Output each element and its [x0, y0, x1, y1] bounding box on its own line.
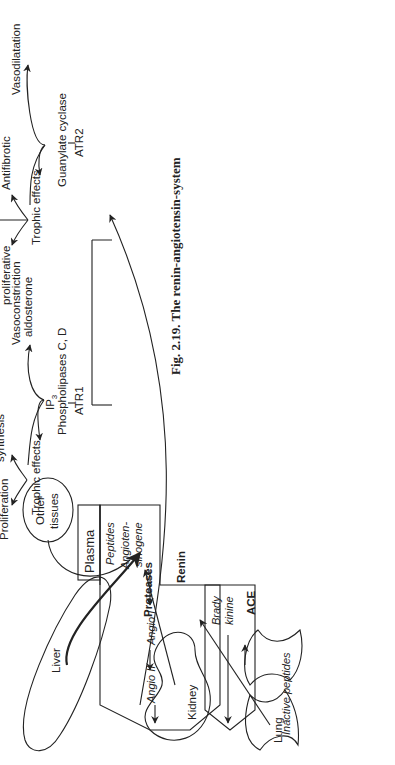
bradykinin-label-1: Brady: [210, 595, 222, 625]
kidney-label: Kidney: [186, 685, 198, 720]
angiotensinogen-label-2: sinogene: [132, 522, 144, 567]
renin-angiotensin-diagram: Liver Other tissues Kidney Lung Protease…: [0, 0, 395, 765]
guanylate-to-vasodilatation-arrow: [27, 65, 45, 145]
lung-organ: Lung: [245, 630, 302, 750]
antifibrotic-label: Antifibrotic: [0, 136, 12, 190]
peptides-label: Peptides: [104, 522, 116, 565]
ip3-to-vasoconstriction-arrow: [28, 345, 44, 400]
atr1-label: ATR1: [73, 386, 85, 415]
atr1-trophic-label: Trophic effects: [30, 440, 42, 515]
liver-label: Liver: [50, 648, 62, 673]
angiotensinogen-label-1: Angioten-: [119, 522, 131, 570]
ace-arrow: [200, 620, 270, 725]
protein-synthesis-label-3: synthesis: [0, 414, 6, 462]
other-tissues-label-2: tissues: [48, 493, 60, 529]
plasma-compartment: Plasma Peptides Angioten- sinogene Angio…: [78, 505, 220, 730]
plasma-header: Plasma: [82, 529, 97, 573]
aldosterone-label: aldosterone: [22, 277, 34, 337]
inactive-peptides-label: Inactive peptides: [280, 652, 292, 735]
figure-caption: Fig. 2.19. The renin-angiotensin-system: [168, 157, 183, 375]
vasodilatation-label: Vasodilatation: [10, 24, 22, 95]
guanylate-cyclase-label: Guanylate cyclase: [56, 93, 68, 187]
angio2-label: Angio II: [145, 666, 157, 704]
bradykinin-label-2: kinine: [223, 596, 235, 625]
proteases-label: Proteases: [142, 562, 154, 617]
phospholipases-label: Phospholipases C, D: [56, 328, 68, 435]
angio2-to-receptors-arrow: [110, 215, 166, 705]
antiproliferative-label-2: proliferative: [0, 246, 12, 305]
renin-label: Renin: [175, 551, 187, 583]
receptor-bracket: [92, 240, 112, 405]
atr2-trophic-label: Trophic effects: [30, 170, 42, 245]
proliferation-label: Proliferation: [0, 479, 10, 540]
